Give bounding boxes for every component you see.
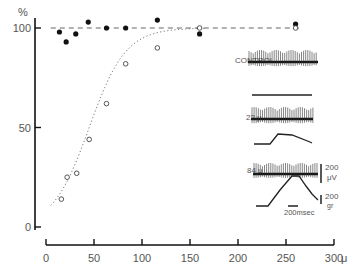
filled-point [104,25,109,30]
x-tick-label: 0 [43,252,49,264]
open-point [59,197,64,202]
time-scale-label: 200msec [284,208,315,217]
x-tick-label: 100 [133,252,151,264]
trace-84-emg [253,163,318,178]
y-tick-label: 100 [13,22,31,34]
y-axis-label: % [18,6,28,18]
filled-point [73,31,78,36]
x-tick-label: 50 [88,252,100,264]
open-point [155,46,160,51]
inset-traces: CONTROL 22 μ 84 μ 200 μV 200 gr 200msec [235,50,339,217]
voltage-scale-value: 200 [325,163,339,172]
voltage-scale-unit: μV [327,173,338,182]
force-scale-value: 200 [325,192,339,201]
trace-22-force [254,134,312,144]
x-tick-label: 200 [229,252,247,264]
filled-point [57,29,62,34]
fit-curve-line [51,28,205,205]
filled-point [197,31,202,36]
open-point [104,101,109,106]
open-point [123,62,128,67]
filled-point [86,19,91,24]
y-tick-label: 0 [25,221,31,233]
force-scale-unit: gr [327,202,334,210]
filled-point [64,39,69,44]
y-tick-label: 50 [19,122,31,134]
open-point [87,137,92,142]
open-point [197,26,202,31]
trace-22-emg [251,107,313,123]
x-tick-label: 250 [277,252,295,264]
trace-84-force [256,176,318,206]
open-point [74,171,79,176]
filled-point [155,17,160,22]
x-axis-unit: μ [341,252,347,264]
open-point [293,26,298,31]
fit-curve [51,28,205,205]
inset-label-control: CONTROL [235,56,275,65]
filled-point [123,25,128,30]
x-tick-label: 150 [181,252,199,264]
open-point [65,175,70,180]
chart: 050100050100150200250300 % μ CONTROL 22 … [0,0,355,270]
axes: 050100050100150200250300 [13,18,344,264]
